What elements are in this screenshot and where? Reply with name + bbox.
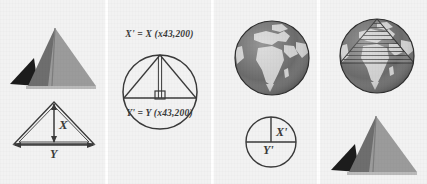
pyramid-photo	[329, 112, 421, 178]
label-base-y-prime: Y'	[263, 143, 274, 157]
label-height-x: X	[58, 117, 68, 132]
caption-y-scaled: Y' = Y (x43,200)	[126, 108, 193, 118]
circle-diagram	[121, 46, 199, 138]
panel-pyramid-dimensions: X Y	[0, 0, 106, 184]
panel-globe-with-pyramid	[319, 0, 427, 184]
panel-globe-reference: X' Y'	[213, 0, 318, 184]
earth-globe	[232, 18, 312, 98]
pyramid-right-face	[369, 116, 417, 172]
pyramid-base-shadow	[26, 86, 96, 89]
pyramid-base-shadow	[347, 172, 417, 175]
triangle-diagram: X Y	[10, 98, 98, 160]
panel-scaled-circle: X' = X (x43,200) Y' = Y (x43,200)	[107, 0, 212, 184]
earth-globe-with-hatched-triangle	[336, 15, 418, 97]
figure-container: X Y X' = X (x43,200) Y' = Y (x43,200)	[0, 0, 427, 184]
quarter-circle-diagram: X' Y'	[243, 114, 299, 172]
pyramid-right-face	[48, 28, 96, 86]
caption-x-scaled: X' = X (x43,200)	[125, 29, 193, 39]
pyramid-photo	[8, 22, 100, 92]
label-base-y: Y	[50, 147, 59, 161]
label-height-x-prime: X'	[275, 125, 288, 139]
